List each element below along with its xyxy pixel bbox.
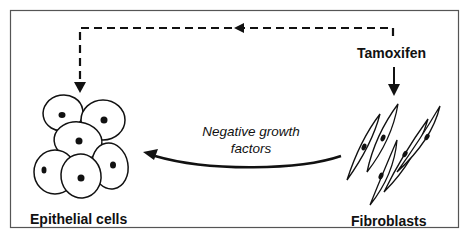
negative-growth-factors-line2: factors [186,140,316,157]
fibroblasts-illustration [347,104,440,205]
negative-growth-factors-line1: Negative growth [186,123,316,140]
epithelial-cells-label: Epithelial cells [30,211,127,227]
dashed-arrow-tamoxifen-to-epithelial [74,23,393,93]
arrowhead-left-icon [143,149,158,160]
arrowhead-down-icon [74,82,86,93]
epithelial-cells-illustration [34,92,132,201]
tamoxifen-label: Tamoxifen [357,45,426,61]
arrow-tamoxifen-to-fibroblasts [388,67,400,96]
fibroblasts-label: Fibroblasts [351,213,426,229]
arrowhead-down-icon [388,84,400,96]
arrowhead-left-icon [234,23,244,33]
negative-growth-factors-label: Negative growth factors [186,123,316,157]
